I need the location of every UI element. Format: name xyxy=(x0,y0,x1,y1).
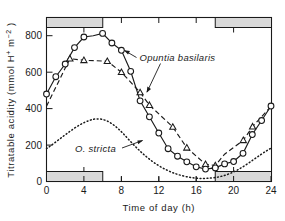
data-point-circle xyxy=(222,161,228,167)
y-tick-label-600: 600 xyxy=(25,67,42,78)
data-point-circle xyxy=(119,47,125,53)
y-axis-title-superscript-minus2: −2 xyxy=(5,29,12,38)
x-tick-label-12: 12 xyxy=(153,185,165,196)
data-point-triangle xyxy=(250,123,256,128)
data-point-circle xyxy=(165,146,171,152)
data-point-circle xyxy=(62,61,68,67)
data-point-circle xyxy=(53,74,59,80)
figure-container: 0 200 400 600 800 xyxy=(0,0,285,221)
data-point-circle xyxy=(203,166,209,172)
data-point-circle xyxy=(81,34,87,40)
y-axis-title-tail: ) xyxy=(5,22,16,29)
data-point-triangle xyxy=(202,161,208,167)
x-tick-label-0: 0 xyxy=(44,185,50,196)
x-tick-label-16: 16 xyxy=(191,185,203,196)
leader-arrow-o-stricta xyxy=(137,140,143,144)
night-bar-bottom-0-6 xyxy=(47,172,103,182)
x-axis-ticks-top xyxy=(84,18,234,33)
data-point-circle xyxy=(231,159,237,165)
data-point-circle xyxy=(128,68,134,74)
data-point-circle xyxy=(193,164,199,170)
data-point-triangle xyxy=(184,145,190,151)
data-point-circle xyxy=(147,114,153,120)
x-tick-label-20: 20 xyxy=(228,185,240,196)
annotation-o-stricta: O. stricta xyxy=(75,140,143,154)
y-axis-ticks xyxy=(47,36,53,182)
y-tick-label-800: 800 xyxy=(25,30,42,41)
titratable-acidity-chart: 0 200 400 600 800 xyxy=(0,0,285,221)
data-point-circle xyxy=(259,118,265,124)
x-tick-label-8: 8 xyxy=(119,185,125,196)
x-tick-label-4: 4 xyxy=(81,185,87,196)
x-tick-label-24: 24 xyxy=(265,185,277,196)
y-tick-label-400: 400 xyxy=(25,103,42,114)
data-point-circle xyxy=(249,132,255,138)
plot-frame xyxy=(47,18,272,182)
data-point-circle xyxy=(44,91,50,97)
night-bar-top-0-6 xyxy=(47,18,103,28)
data-point-circle xyxy=(109,40,115,46)
data-point-circle xyxy=(72,45,78,51)
night-bar-bottom-18-24 xyxy=(215,172,271,182)
data-point-circle xyxy=(184,159,190,165)
data-point-circle xyxy=(137,98,143,104)
data-point-circle xyxy=(240,150,246,156)
data-point-circle xyxy=(175,153,181,159)
y-axis-title-mid: m xyxy=(5,38,16,50)
y-axis-title-main: Titratable acidity (mmol H xyxy=(5,55,16,178)
leader-arrow-opuntia-upper xyxy=(124,50,130,54)
y-axis-title: Titratable acidity (mmol H+ m−2 ) xyxy=(5,22,16,178)
y-axis-tick-labels: 0 200 400 600 800 xyxy=(25,30,42,187)
annotation-label-o-stricta: O. stricta xyxy=(75,143,116,154)
data-point-circle xyxy=(268,103,274,109)
y-tick-label-0: 0 xyxy=(36,176,42,187)
annotation-label-opuntia-basilaris: Opuntia basilaris xyxy=(140,52,216,63)
data-point-triangle xyxy=(67,55,73,61)
data-point-circle xyxy=(212,165,218,171)
data-point-circle xyxy=(100,31,106,37)
x-axis-tick-labels: 0 4 8 12 16 20 24 xyxy=(44,185,277,196)
x-axis-title: Time of day (h) xyxy=(123,202,196,213)
data-point-circle xyxy=(156,130,162,136)
x-axis-ticks-bottom-inner xyxy=(84,167,234,182)
y-tick-label-200: 200 xyxy=(25,140,42,151)
night-bar-top-18-24 xyxy=(215,18,271,28)
annotation-opuntia-basilaris: Opuntia basilaris xyxy=(124,50,215,93)
